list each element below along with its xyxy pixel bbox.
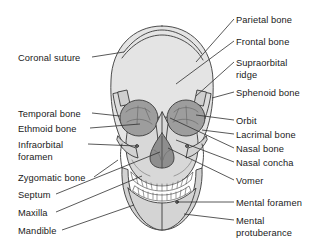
label-temporal-bone-line-0: Temporal bone [18,109,81,121]
label-frontal-bone: Frontal bone [236,37,289,49]
label-maxilla-line-0: Maxilla [18,208,48,220]
label-mental-protuberance-line-1: protuberance [236,228,316,240]
leader-frontal-bone [176,41,234,84]
label-infraorbital-foramen-line-0: Infraorbital [18,140,98,152]
leader-sphenoid-bone [212,92,234,98]
label-nasal-concha: Nasal concha [236,158,294,170]
label-maxilla: Maxilla [18,208,48,220]
leader-orbit [196,115,234,120]
leader-nasal-concha [176,140,234,162]
leader-temporal-bone [92,113,120,116]
label-frontal-bone-line-0: Frontal bone [236,37,289,49]
label-sphenoid-bone-line-0: Sphenoid bone [236,88,300,100]
label-infraorbital-foramen-line-1: foramen [18,152,98,164]
label-zygomatic-bone-line-0: Zygomatic bone [18,173,86,185]
label-mandible: Mandible [18,226,57,238]
leader-mental-protuberance [184,214,234,220]
label-septum: Septum [18,190,51,202]
label-supraorbital-ridge-line-0: Supraorbital [236,58,316,70]
label-ethmoid-bone-line-0: Ethmoid bone [18,124,77,136]
label-parietal-bone-line-0: Parietal bone [236,15,292,27]
label-orbit: Orbit [236,116,257,128]
label-mental-protuberance-line-0: Mental [236,216,316,228]
label-mandible-line-0: Mandible [18,226,57,238]
label-mental-foramen-line-0: Mental foramen [236,198,302,210]
skull-diagram: Coronal sutureTemporal boneEthmoid boneI… [0,0,325,252]
leader-vomer [168,148,234,180]
label-lacrimal-bone: Lacrimal bone [236,130,296,142]
label-ethmoid-bone: Ethmoid bone [18,124,77,136]
label-nasal-bone-line-0: Nasal bone [236,144,284,156]
leader-supraorbital-ridge [196,62,234,96]
leader-ethmoid-bone [90,124,140,128]
label-vomer-line-0: Vomer [236,176,263,188]
label-temporal-bone: Temporal bone [18,109,81,121]
label-nasal-concha-line-0: Nasal concha [236,158,294,170]
label-orbit-line-0: Orbit [236,116,257,128]
label-parietal-bone: Parietal bone [236,15,292,27]
label-vomer: Vomer [236,176,263,188]
label-sphenoid-bone: Sphenoid bone [236,88,300,100]
label-septum-line-0: Septum [18,190,51,202]
label-nasal-bone: Nasal bone [236,144,284,156]
label-supraorbital-ridge-line-1: ridge [236,70,316,82]
label-lacrimal-bone-line-0: Lacrimal bone [236,130,296,142]
leader-coronal-suture [92,52,124,57]
label-supraorbital-ridge: Supraorbitalridge [236,58,316,81]
label-infraorbital-foramen: Infraorbitalforamen [18,140,98,163]
label-mental-protuberance: Mentalprotuberance [236,216,316,239]
leader-lacrimal-bone [202,130,234,134]
label-coronal-suture-line-0: Coronal suture [18,53,80,65]
label-coronal-suture: Coronal suture [18,53,80,65]
label-zygomatic-bone: Zygomatic bone [18,173,86,185]
leader-mandible [62,205,134,230]
label-mental-foramen: Mental foramen [236,198,302,210]
